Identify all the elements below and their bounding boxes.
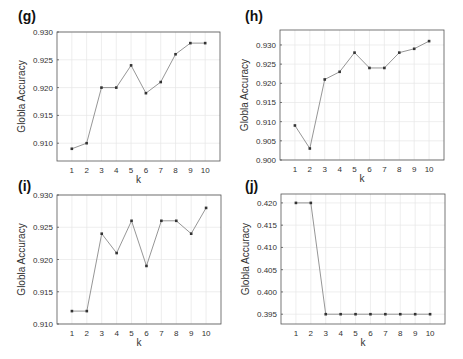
y-tick-label: 0.395 — [257, 310, 278, 319]
data-point-marker — [354, 313, 357, 316]
y-tick-label: 0.910 — [33, 320, 54, 329]
y-tick-label: 0.925 — [33, 56, 54, 65]
data-point-marker — [339, 313, 342, 316]
data-point-marker — [310, 202, 313, 205]
data-point-marker — [429, 313, 432, 316]
y-tick-label: 0.915 — [33, 288, 54, 297]
x-tick-label: 3 — [99, 166, 104, 175]
x-tick-label: 1 — [70, 166, 75, 175]
x-tick-label: 6 — [367, 165, 372, 174]
data-point-marker — [130, 220, 133, 223]
x-tick-label: 9 — [188, 166, 193, 175]
data-point-marker — [115, 252, 118, 255]
data-point-marker — [115, 86, 118, 89]
data-point-marker — [174, 53, 177, 56]
plot-area-frame — [57, 32, 220, 161]
x-tick-label: 2 — [308, 165, 313, 174]
chart-panel-j: 0.3950.4000.4050.4100.4150.4201234567891… — [240, 178, 445, 348]
y-tick-label: 0.915 — [256, 98, 277, 107]
x-tick-label: 1 — [70, 329, 75, 338]
x-axis-label: k — [136, 174, 142, 185]
x-tick-label: 4 — [337, 165, 342, 174]
data-point-marker — [369, 313, 372, 316]
data-point-marker — [130, 64, 133, 67]
y-axis-label: Globla Accuracy — [240, 223, 251, 295]
x-axis-label: k — [137, 337, 143, 348]
y-axis-label: Globla Accuracy — [239, 59, 250, 131]
data-point-marker — [71, 147, 74, 150]
x-tick-label: 2 — [309, 329, 314, 338]
data-point-marker — [413, 47, 416, 50]
x-tick-label: 8 — [173, 166, 178, 175]
data-point-marker — [295, 202, 298, 205]
x-tick-label: 8 — [397, 165, 402, 174]
data-point-marker — [399, 313, 402, 316]
x-tick-label: 5 — [129, 166, 134, 175]
data-point-marker — [368, 67, 371, 70]
data-point-marker — [205, 207, 208, 210]
y-tick-label: 0.910 — [33, 139, 54, 148]
data-point-marker — [160, 220, 163, 223]
x-tick-label: 3 — [100, 329, 105, 338]
y-tick-label: 0.400 — [257, 288, 278, 297]
x-tick-label: 3 — [324, 329, 329, 338]
y-tick-label: 0.410 — [257, 243, 278, 252]
y-tick-label: 0.405 — [257, 266, 278, 275]
chart-canvas: 0.9100.9150.9200.9250.93012345678910kGlo… — [0, 0, 463, 359]
data-point-marker — [145, 92, 148, 95]
data-point-marker — [338, 70, 341, 73]
x-tick-label: 1 — [294, 329, 299, 338]
x-tick-label: 3 — [323, 165, 328, 174]
data-series-line — [296, 203, 430, 314]
x-tick-label: 10 — [425, 165, 434, 174]
chart-panel-h: 0.9000.9050.9100.9150.9200.9250.93012345… — [239, 8, 444, 184]
y-tick-label: 0.420 — [257, 199, 278, 208]
data-point-marker — [189, 42, 192, 45]
data-point-marker — [383, 67, 386, 70]
chart-panel-g: 0.9100.9150.9200.9250.93012345678910kGlo… — [16, 8, 220, 185]
y-tick-label: 0.920 — [33, 256, 54, 265]
data-series-line — [72, 43, 205, 149]
x-tick-label: 5 — [353, 329, 358, 338]
data-point-marker — [71, 310, 74, 313]
x-tick-label: 5 — [129, 329, 134, 338]
x-tick-label: 1 — [293, 165, 298, 174]
x-axis-label: k — [361, 337, 367, 348]
x-tick-label: 7 — [383, 329, 388, 338]
x-tick-label: 6 — [144, 329, 149, 338]
panel-label: (g) — [18, 8, 36, 24]
x-tick-label: 6 — [144, 166, 149, 175]
y-axis-label: Globla Accuracy — [16, 223, 27, 295]
panel-label: (i) — [18, 178, 31, 194]
y-tick-label: 0.925 — [33, 223, 54, 232]
y-tick-label: 0.920 — [256, 79, 277, 88]
data-point-marker — [324, 313, 327, 316]
panel-label: (j) — [245, 178, 258, 194]
x-tick-label: 5 — [352, 165, 357, 174]
x-tick-label: 2 — [84, 166, 89, 175]
data-point-marker — [353, 51, 356, 54]
data-point-marker — [309, 147, 312, 150]
x-tick-label: 4 — [114, 329, 119, 338]
y-tick-label: 0.930 — [33, 191, 54, 200]
data-point-marker — [323, 78, 326, 81]
x-tick-label: 10 — [201, 166, 210, 175]
data-point-marker — [100, 232, 103, 235]
data-series-line — [295, 41, 429, 148]
x-tick-label: 8 — [174, 329, 179, 338]
x-tick-label: 9 — [413, 329, 418, 338]
data-point-marker — [294, 124, 297, 127]
x-tick-label: 7 — [159, 166, 164, 175]
y-tick-label: 0.915 — [33, 111, 54, 120]
x-tick-label: 10 — [202, 329, 211, 338]
x-tick-label: 2 — [85, 329, 90, 338]
y-tick-label: 0.930 — [33, 28, 54, 37]
data-point-marker — [384, 313, 387, 316]
y-tick-label: 0.415 — [257, 221, 278, 230]
y-tick-label: 0.910 — [256, 118, 277, 127]
data-point-marker — [175, 220, 178, 223]
data-point-marker — [100, 86, 103, 89]
y-tick-label: 0.900 — [256, 156, 277, 165]
y-tick-label: 0.930 — [256, 41, 277, 50]
x-tick-label: 4 — [338, 329, 343, 338]
